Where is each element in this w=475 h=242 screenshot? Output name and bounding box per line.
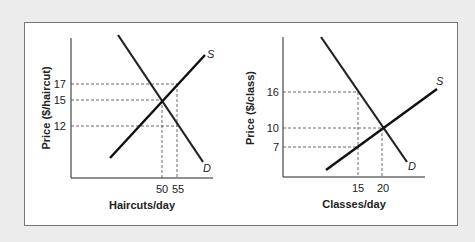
supply-label: S [207, 48, 215, 60]
x-axis-label: Classes/day [322, 198, 386, 210]
supply-curve [326, 89, 437, 170]
charts-svg: S D 17 15 12 50 55 Haircuts/day Price ($… [0, 0, 475, 242]
demand-curve [118, 35, 203, 162]
demand-label: D [203, 162, 211, 174]
y-axis-label: Price ($/haircut) [40, 66, 52, 149]
haircut-chart: S D 17 15 12 50 55 Haircuts/day Price ($… [40, 35, 215, 211]
y-tick-12: 12 [54, 120, 66, 132]
x-tick-55: 55 [172, 183, 184, 195]
supply-label: S [436, 75, 444, 87]
y-tick-10: 10 [267, 122, 279, 134]
x-tick-50: 50 [156, 183, 168, 195]
y-tick-15: 15 [54, 94, 66, 106]
y-tick-16: 16 [267, 86, 279, 98]
y-axis-label: Price ($/class) [244, 71, 256, 145]
y-tick-17: 17 [54, 78, 66, 90]
x-axis-label: Haircuts/day [109, 199, 176, 211]
x-tick-15: 15 [352, 182, 364, 194]
y-tick-7: 7 [273, 141, 279, 153]
class-chart: S D 16 10 7 15 20 Classes/day Price ($/c… [244, 37, 444, 210]
x-tick-20: 20 [377, 182, 389, 194]
demand-label: D [408, 160, 416, 172]
